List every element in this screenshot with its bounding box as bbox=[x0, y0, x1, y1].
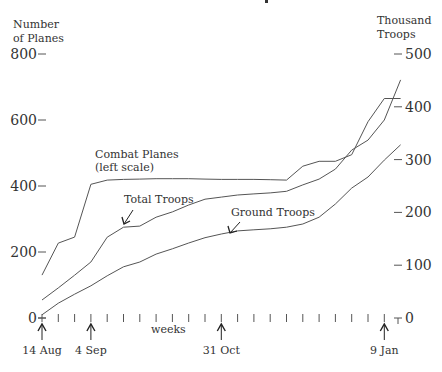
date-marker: 14 Aug bbox=[22, 324, 62, 357]
title-remnant bbox=[265, 0, 268, 3]
date-markers: 14 Aug4 Sep31 Oct9 Jan bbox=[22, 324, 398, 357]
left-tick-label: 600 bbox=[10, 112, 37, 128]
right-axis-label-line1: Thousand bbox=[377, 14, 431, 27]
date-marker: 9 Jan bbox=[370, 324, 399, 357]
x-axis-ticks bbox=[38, 314, 384, 322]
left-tick-label: 0 bbox=[28, 310, 37, 326]
date-marker: 31 Oct bbox=[203, 324, 241, 357]
series-group bbox=[42, 80, 401, 315]
date-marker-label: 31 Oct bbox=[203, 344, 241, 357]
series-label-total-troops: Total Troops bbox=[124, 193, 194, 206]
left-tick-label: 400 bbox=[10, 178, 37, 194]
date-marker-label: 9 Jan bbox=[370, 344, 399, 357]
right-axis-label-line2: Troops bbox=[377, 28, 416, 41]
right-axis-ticks: 0100200300400500 bbox=[394, 46, 432, 326]
right-tick-label: 200 bbox=[405, 204, 432, 220]
left-axis-ticks: 0200400600800 bbox=[10, 46, 46, 326]
right-tick-label: 100 bbox=[405, 257, 432, 273]
chart: Number of Planes Thousand Troops 0200400… bbox=[0, 0, 442, 372]
series-label-combat-planes-line1: Combat Planes bbox=[95, 148, 179, 161]
series-label-combat-planes-line2: (left scale) bbox=[95, 161, 154, 174]
date-marker-label: 4 Sep bbox=[75, 344, 107, 357]
series-line-total-troops bbox=[42, 80, 401, 300]
total-troops-arrow-icon bbox=[122, 210, 133, 224]
series-label-ground-troops: Ground Troops bbox=[231, 206, 315, 219]
x-axis-label: weeks bbox=[151, 323, 186, 336]
right-tick-label: 0 bbox=[405, 310, 414, 326]
date-marker: 4 Sep bbox=[75, 324, 107, 357]
right-tick-label: 300 bbox=[405, 152, 432, 168]
right-tick-label: 500 bbox=[405, 46, 432, 62]
left-axis-label-line2: of Planes bbox=[13, 32, 64, 45]
right-tick-label: 400 bbox=[405, 99, 432, 115]
left-tick-label: 200 bbox=[10, 244, 37, 260]
date-marker-label: 14 Aug bbox=[22, 344, 62, 357]
series-line-combat-planes bbox=[42, 99, 401, 276]
left-tick-label: 800 bbox=[10, 46, 37, 62]
left-axis-label-line1: Number bbox=[13, 18, 60, 31]
